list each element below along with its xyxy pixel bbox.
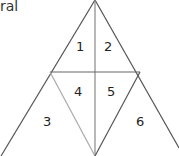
region-label-5: 5 (107, 85, 115, 98)
outer-left-edge (1, 0, 95, 156)
inner-left-edge (50, 72, 95, 156)
triangle-diagram (0, 0, 179, 156)
region-label-4: 4 (74, 85, 82, 98)
region-label-3: 3 (43, 115, 51, 128)
region-label-6: 6 (136, 115, 144, 128)
inner-right-edge (95, 72, 140, 156)
region-label-1: 1 (76, 40, 84, 53)
region-label-2: 2 (104, 40, 112, 53)
